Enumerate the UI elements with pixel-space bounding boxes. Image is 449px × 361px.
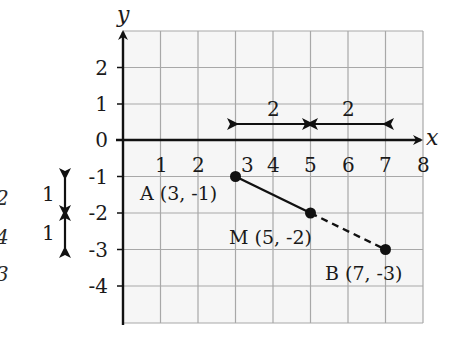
svg-text:0: 0 [95,128,108,152]
point-m [305,208,316,219]
coordinate-diagram: y x 2 1 0 -1 -2 -3 -4 1 2 3 4 5 6 7 8 2 … [0,0,449,361]
svg-text:7: 7 [379,153,392,177]
point-b [380,244,391,255]
x-axis-label: x [426,125,439,150]
svg-text:-1: -1 [89,165,108,189]
point-m-label: M (5, -2) [229,226,312,248]
svg-text:4: 4 [267,153,280,177]
svg-text:5: 5 [304,153,317,177]
svg-text:1: 1 [155,153,168,177]
svg-text:8: 8 [417,153,430,177]
svg-text:2: 2 [0,186,9,210]
distance-label-mb-y: 1 [42,221,55,245]
svg-text:2: 2 [192,153,205,177]
svg-text:2: 2 [95,56,108,80]
y-tick-labels: 2 1 0 -1 -2 -3 -4 [89,56,108,298]
distance-label-am-y: 1 [42,182,55,206]
svg-text:6: 6 [342,153,355,177]
svg-text:4: 4 [0,225,9,249]
distance-label-mb-x: 2 [342,97,355,121]
point-a [230,171,241,182]
point-a-label: A (3, -1) [139,182,217,204]
svg-text:3: 3 [0,262,9,286]
svg-text:1: 1 [95,92,108,116]
svg-text:3: 3 [241,153,254,177]
point-b-label: B (7, -3) [325,262,403,284]
svg-text:-3: -3 [89,238,108,262]
y-axis-label: y [116,2,130,27]
svg-text:-4: -4 [89,274,108,298]
svg-text:-2: -2 [89,201,108,225]
distance-label-am-x: 2 [267,97,280,121]
margin-notes: 2 4 3 [0,186,9,286]
